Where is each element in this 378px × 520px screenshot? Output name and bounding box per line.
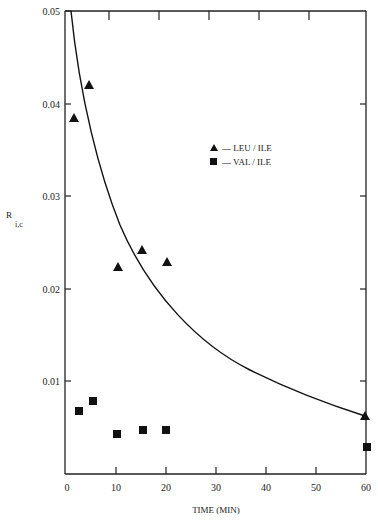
square-marker <box>363 443 371 451</box>
triangle-marker <box>69 113 79 122</box>
x-tick-label: 0 <box>65 482 70 493</box>
y-tick-label: 0.05 <box>43 6 61 17</box>
x-tick-label: 10 <box>111 482 121 493</box>
x-tick-label: 50 <box>311 482 321 493</box>
y-tick-label: 0.04 <box>43 99 61 110</box>
series-val-ile <box>75 397 371 451</box>
y-tick-label: 0.01 <box>43 376 61 387</box>
square-marker <box>139 426 147 434</box>
legend-label-val-ile: — VAL / ILE <box>221 157 272 167</box>
legend-label-leu-ile: — LEU / ILE <box>221 143 272 153</box>
y-axis-ticks <box>65 11 366 381</box>
legend-triangle-icon <box>210 144 218 151</box>
triangle-marker <box>137 245 147 254</box>
triangle-marker <box>162 257 172 266</box>
x-axis-title: TIME (MIN) <box>192 505 240 515</box>
triangle-marker <box>84 80 94 89</box>
square-marker <box>162 426 170 434</box>
x-tick-label: 60 <box>361 482 371 493</box>
series-leu-ile <box>69 80 370 420</box>
x-axis-ticks <box>109 11 316 474</box>
fitted-curve <box>71 11 365 416</box>
square-marker <box>113 430 121 438</box>
x-tick-labels: 0 10 20 30 40 50 60 <box>65 482 372 493</box>
x-tick-label: 20 <box>161 482 171 493</box>
y-axis-title: R i,c <box>6 210 23 229</box>
legend-square-icon <box>210 158 217 165</box>
square-marker <box>75 407 83 415</box>
legend: — LEU / ILE — VAL / ILE <box>210 143 272 167</box>
y-tick-labels: 0.05 0.04 0.03 0.02 0.01 <box>43 6 61 387</box>
x-tick-label: 40 <box>261 482 271 493</box>
y-tick-label: 0.03 <box>43 191 61 202</box>
triangle-marker <box>113 262 123 271</box>
square-marker <box>89 397 97 405</box>
plot-frame <box>65 11 366 474</box>
y-tick-label: 0.02 <box>43 284 61 295</box>
y-axis-title-main: R <box>6 210 12 220</box>
chart: 0.05 0.04 0.03 0.02 0.01 0 10 20 30 40 5… <box>0 0 378 520</box>
y-axis-title-subscript: i,c <box>15 220 23 229</box>
x-tick-label: 30 <box>211 482 221 493</box>
